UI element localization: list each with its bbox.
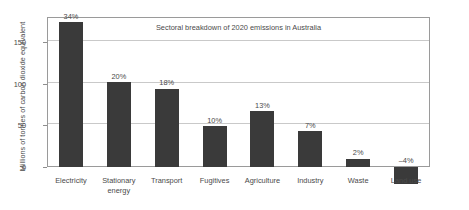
x-label-waste: Waste [334,176,382,186]
bar [298,131,322,167]
y-tick-label-50: 50 [0,121,26,130]
bar-value-label: 7% [305,121,316,130]
bar-value-label: 20% [111,72,126,81]
bar [59,22,83,167]
bar-slot: 10% [191,17,239,167]
y-tick-label-150: 150 [0,38,26,47]
y-tick-label-0: 0 [0,163,26,172]
bar-slot: 7% [286,17,334,167]
x-axis-category-labels: ElectricityStationaryenergyTransportFugi… [47,176,430,204]
bar-slot: –4% [382,17,430,167]
bar-value-label: 18% [159,78,174,87]
bar [250,111,274,167]
bar-slot: 2% [334,17,382,167]
x-label-fugitives: Fugitives [191,176,239,186]
bar [107,82,131,167]
bar-slot: 13% [239,17,287,167]
x-label-agriculture: Agriculture [239,176,287,186]
bar [203,126,227,167]
emissions-bar-chart: Millions of tonnes of carbon dioxide equ… [0,0,469,210]
bar [346,159,370,167]
bar-slot: 18% [143,17,191,167]
x-label-stationary-energy: Stationaryenergy [95,176,143,195]
bar-slot: 20% [95,17,143,167]
x-label-industry: Industry [286,176,334,186]
bar-value-label: –4% [399,156,414,165]
bars-layer: 34%20%18%10%13%7%2%–4% [47,17,430,167]
bar-slot: 34% [47,17,95,167]
y-tick-label-100: 100 [0,80,26,89]
x-label-electricity: Electricity [47,176,95,186]
x-label-transport: Transport [143,176,191,186]
x-label-land-use: Land use [382,176,430,186]
bar-value-label: 10% [207,116,222,125]
y-tick-mark-0 [43,167,47,168]
bar [155,89,179,167]
bar-value-label: 13% [255,101,270,110]
bar-value-label: 2% [353,148,364,157]
bar-value-label: 34% [64,12,79,21]
